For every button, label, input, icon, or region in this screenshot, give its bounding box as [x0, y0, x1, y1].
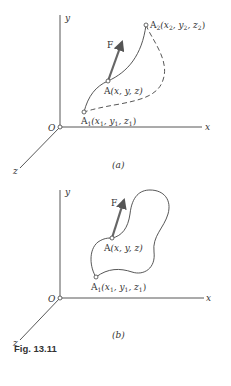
- point-a-label: A(x, y, z): [103, 243, 143, 253]
- figure: y x z O F A2(x2, y2, z2) A(x, y, z) A1(x…: [0, 0, 231, 386]
- point-a2-label: A2(x2, y2, z2): [149, 20, 205, 31]
- point-a1: [94, 275, 98, 279]
- point-a1-label: A1(x1, y1, z1): [90, 282, 146, 293]
- figure-caption: Fig. 13.11: [14, 343, 57, 354]
- point-a: [110, 236, 114, 240]
- point-a: [106, 79, 110, 83]
- panel-b: y x z O F A(x, y, z) A1(x1, y1, z1) (b): [12, 187, 211, 348]
- path-solid: [84, 25, 146, 112]
- point-a-label: A(x, y, z): [103, 86, 143, 96]
- force-label: F: [111, 198, 117, 208]
- x-axis-label: x: [205, 122, 210, 132]
- panel-a-label: (a): [112, 160, 125, 170]
- x-axis-label: x: [206, 293, 211, 303]
- z-axis: [20, 298, 60, 340]
- point-a1: [82, 110, 86, 114]
- origin-point: [58, 125, 62, 129]
- z-axis: [20, 127, 60, 168]
- path-dashed: [84, 25, 165, 112]
- y-axis-label: y: [64, 187, 71, 197]
- closed-path: [91, 190, 169, 277]
- panel-a: y x z O F A2(x2, y2, z2) A(x, y, z) A1(x…: [12, 13, 210, 176]
- panel-b-label: (b): [112, 330, 125, 340]
- point-a2: [144, 23, 148, 27]
- origin-label: O: [48, 294, 56, 304]
- force-label: F: [107, 40, 113, 50]
- point-a1-label: A1(x1, y1, z1): [80, 116, 136, 127]
- origin-label: O: [48, 123, 56, 133]
- z-axis-label: z: [12, 166, 18, 176]
- y-axis-label: y: [64, 13, 71, 23]
- origin-point: [58, 296, 62, 300]
